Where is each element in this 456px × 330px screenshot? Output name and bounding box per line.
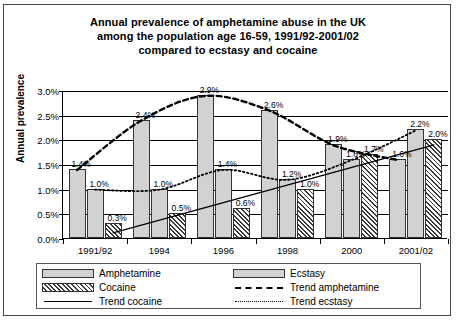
x-axis-tick-mark — [320, 239, 321, 244]
x-axis-tick-mark — [63, 239, 64, 244]
chart-title-line-2: among the population age 16-59, 1991/92-… — [4, 29, 452, 43]
bar-value-label: 2.9% — [200, 85, 219, 95]
bar-value-label: 1.7% — [364, 144, 383, 154]
x-axis-tick-label: 2001/02 — [399, 245, 433, 256]
bar-value-label: 1.9% — [328, 134, 347, 144]
bar-value-label: 2.6% — [264, 100, 283, 110]
bar-value-label: 2.4% — [136, 110, 155, 120]
legend-swatch-icon — [233, 283, 285, 292]
chart-title-line-3: compared to ecstasy and cocaine — [4, 43, 452, 57]
chart-image: Annual prevalence of amphetamine abuse i… — [0, 0, 456, 330]
x-axis-tick-mark — [448, 239, 449, 244]
legend-swatch-icon — [233, 297, 285, 306]
x-axis-tick-mark — [191, 239, 192, 244]
legend-swatch-icon — [42, 269, 94, 278]
chart-frame: Annual prevalence of amphetamine abuse i… — [3, 4, 451, 316]
bar-value-label: 1.2% — [282, 169, 301, 179]
bar-value-label: 1.0% — [300, 179, 319, 189]
y-axis-tick-label: 1.0% — [37, 184, 59, 195]
x-axis-tick-label: 1996 — [213, 245, 234, 256]
x-axis-tick-label: 2000 — [341, 245, 362, 256]
chart-title: Annual prevalence of amphetamine abuse i… — [4, 15, 452, 57]
legend-label: Trend ecstasy — [290, 296, 352, 307]
plot-area-wrapper: 0.0%0.5%1.0%1.5%2.0%2.5%3.0% 1.4%1.0%0.3… — [62, 91, 447, 239]
bottom-caption — [0, 322, 456, 330]
x-axis-tick-mark — [256, 239, 257, 244]
y-axis-tick-label: 0.0% — [37, 234, 59, 245]
bar-value-label: 1.6% — [392, 149, 411, 159]
bar-value-label: 0.5% — [172, 203, 191, 213]
legend-item-trend-amphetamine: Trend amphetamine — [233, 281, 423, 294]
y-axis-tick-label: 3.0% — [37, 86, 59, 97]
bar-value-label: 1.0% — [154, 179, 173, 189]
legend-label: Cocaine — [99, 282, 136, 293]
chart-legend: AmphetamineCocaineTrend cocaine EcstasyT… — [36, 263, 421, 309]
bar-value-label: 0.6% — [236, 198, 255, 208]
legend-label: Trend cocaine — [99, 296, 162, 307]
legend-label: Amphetamine — [99, 268, 161, 279]
legend-label: Ecstasy — [290, 268, 325, 279]
legend-item-amphetamine: Amphetamine — [42, 267, 232, 280]
trend-cocaine-line — [113, 145, 434, 233]
legend-item-cocaine: Cocaine — [42, 281, 232, 294]
plot-area: 0.0%0.5%1.0%1.5%2.0%2.5%3.0% 1.4%1.0%0.3… — [62, 91, 447, 239]
bar-value-label: 1.4% — [218, 159, 237, 169]
legend-item-ecstasy: Ecstasy — [233, 267, 423, 280]
bar-value-label: 2.2% — [410, 119, 429, 129]
trend-ecstasy-line — [95, 130, 416, 191]
bar-value-label: 1.6% — [346, 149, 365, 159]
legend-swatch-icon — [42, 283, 94, 292]
x-axis-tick-label: 1998 — [277, 245, 298, 256]
bar-value-label: 1.4% — [71, 159, 90, 169]
x-axis-tick-mark — [384, 239, 385, 244]
y-axis-tick-label: 1.5% — [37, 160, 59, 171]
y-axis-title: Annual prevalence — [15, 59, 26, 179]
legend-item-trend-cocaine: Trend cocaine — [42, 295, 232, 308]
y-axis-tick-label: 0.5% — [37, 209, 59, 220]
x-axis-tick-mark — [127, 239, 128, 244]
y-axis-tick-label: 2.0% — [37, 135, 59, 146]
chart-title-line-1: Annual prevalence of amphetamine abuse i… — [4, 15, 452, 29]
legend-swatch-icon — [42, 297, 94, 306]
legend-label: Trend amphetamine — [290, 282, 379, 293]
legend-swatch-icon — [233, 269, 285, 278]
legend-item-trend-ecstasy: Trend ecstasy — [233, 295, 423, 308]
bar-value-label: 1.0% — [89, 179, 108, 189]
legend-column-right: EcstasyTrend amphetamineTrend ecstasy — [233, 267, 423, 309]
y-axis-tick-label: 2.5% — [37, 110, 59, 121]
x-axis-tick-label: 1991/92 — [78, 245, 112, 256]
legend-column-left: AmphetamineCocaineTrend cocaine — [42, 267, 232, 309]
x-axis-tick-label: 1994 — [149, 245, 170, 256]
bar-value-label: 2.0% — [428, 129, 447, 139]
bar-value-label: 0.3% — [107, 213, 126, 223]
